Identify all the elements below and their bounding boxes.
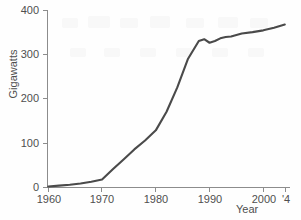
chart-figure: 400 300 200 100 0 1960 1970 1980 1990 20… [0, 0, 301, 220]
x-tick-label-1980: 1980 [138, 193, 174, 205]
x-axis [48, 188, 291, 193]
y-tick-label-0: 0 [9, 181, 39, 193]
data-series-line [48, 25, 284, 187]
x-tick-label-1960: 1960 [31, 193, 67, 205]
x-tick-label-1970: 1970 [84, 193, 120, 205]
x-tick-label-2004: '4 [277, 193, 295, 205]
y-axis [43, 10, 48, 188]
y-tick-label-100: 100 [9, 137, 39, 149]
y-tick-label-400: 400 [9, 4, 39, 16]
y-axis-title: Gigawatts [7, 34, 19, 114]
x-tick-label-1990: 1990 [192, 193, 228, 205]
x-axis-title: Year [236, 203, 258, 215]
plot-canvas [0, 0, 301, 220]
